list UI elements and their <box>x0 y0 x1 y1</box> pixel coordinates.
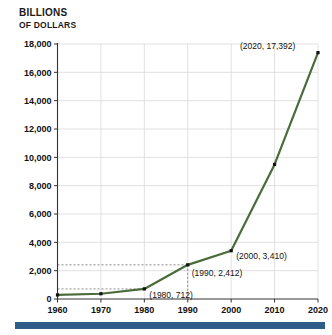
y-tick-label: 18,000 <box>24 39 52 49</box>
data-point-marker <box>273 163 276 166</box>
data-point-annotation: (2020, 17,392) <box>240 41 295 51</box>
data-point-marker <box>99 292 102 295</box>
y-tick-labels-group: 02,0004,0006,0008,00010,00012,00014,0001… <box>24 39 52 304</box>
y-tick-label: 16,000 <box>24 68 52 78</box>
bottom-accent-bar <box>15 322 325 329</box>
data-point-annotation: (1980, 712) <box>149 290 193 300</box>
data-point-marker <box>56 293 59 296</box>
x-tick-label: 1990 <box>178 305 198 315</box>
y-tick-label: 2,000 <box>29 266 52 276</box>
x-tick-label: 2010 <box>265 305 285 315</box>
data-point-marker <box>186 263 189 266</box>
line-chart: 02,0004,0006,0008,00010,00012,00014,0001… <box>0 0 332 335</box>
x-tick-label: 2000 <box>221 305 241 315</box>
data-point-annotation: (1990, 2,412) <box>192 268 243 278</box>
chart-page: BILLIONS OF DOLLARS 02,0004,0006,0008,00… <box>0 0 332 335</box>
y-tick-label: 8,000 <box>29 181 52 191</box>
y-tick-label: 10,000 <box>24 153 52 163</box>
gridlines-group <box>58 44 319 299</box>
x-tick-label: 2020 <box>308 305 328 315</box>
y-tick-label: 0 <box>46 294 51 304</box>
y-tick-label: 12,000 <box>24 124 52 134</box>
y-tick-label: 14,000 <box>24 96 52 106</box>
x-tick-label: 1980 <box>134 305 154 315</box>
y-tick-label: 6,000 <box>29 209 52 219</box>
x-tick-labels-group: 1960197019801990200020102020 <box>47 305 328 315</box>
x-tick-label: 1970 <box>91 305 111 315</box>
data-point-marker <box>143 287 146 290</box>
y-tick-label: 4,000 <box>29 238 52 248</box>
data-point-annotation: (2000, 3,410) <box>236 251 287 261</box>
data-annotations-group: (1980, 712)(1990, 2,412)(2000, 3,410)(20… <box>149 41 295 300</box>
data-point-marker <box>230 249 233 252</box>
data-point-marker <box>316 51 319 54</box>
tick-marks-group <box>54 44 318 303</box>
x-tick-label: 1960 <box>47 305 67 315</box>
